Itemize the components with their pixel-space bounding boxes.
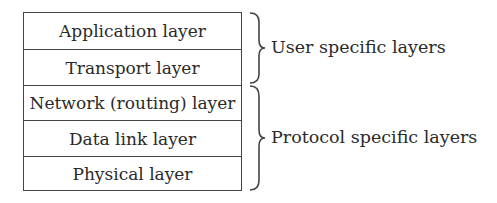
protocol-specific-label: Protocol specific layers [271, 127, 477, 147]
user-specific-label: User specific layers [271, 37, 446, 57]
protocol-group-brace-icon [250, 86, 265, 190]
group-braces [0, 0, 497, 203]
user-group-brace-icon [250, 13, 265, 83]
